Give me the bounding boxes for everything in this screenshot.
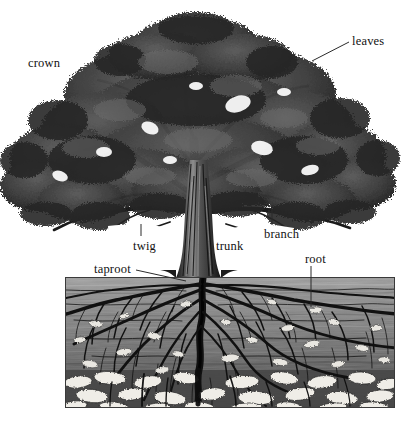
label-crown: crown [28,57,60,70]
label-twig: twig [133,240,156,253]
label-branch: branch [264,228,299,241]
label-root: root [305,253,326,266]
soil-illustration [66,278,395,408]
tree-anatomy-figure: crown leaves twig trunk branch taproot r… [0,0,407,422]
label-leaves: leaves [352,35,384,48]
label-taproot: taproot [94,263,131,276]
label-trunk: trunk [216,240,243,253]
soil-cross-section [65,277,395,408]
